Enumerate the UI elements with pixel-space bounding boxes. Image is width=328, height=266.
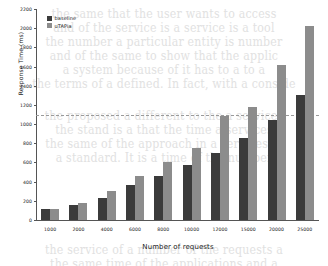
bar-baseline — [296, 95, 305, 220]
y-axis-tick-label: 1200 — [6, 102, 32, 107]
bar-utapia — [107, 191, 116, 220]
y-axis-tick-mark — [34, 201, 37, 202]
y-axis-tick-label: 2000 — [6, 26, 32, 31]
bar-chart-figure: Response Time (ms) Number of requests 02… — [0, 0, 328, 266]
legend-swatch-icon — [47, 16, 52, 21]
y-axis-tick-label: 800 — [6, 141, 32, 146]
y-axis-tick-mark — [34, 9, 37, 10]
bar-baseline — [69, 205, 78, 220]
bar-utapia — [220, 116, 229, 220]
chart-legend: baselineuTAPia — [45, 14, 78, 31]
y-axis-tick-mark — [34, 28, 37, 29]
y-axis-tick-mark — [34, 105, 37, 106]
y-axis-tick-mark — [34, 220, 37, 221]
y-axis-tick-label: 200 — [6, 198, 32, 203]
bar-utapia — [305, 26, 314, 220]
legend-item-utapia: uTAPia — [47, 23, 76, 29]
bar-utapia — [277, 65, 286, 220]
bar-group — [149, 162, 177, 221]
bar-group — [64, 203, 92, 220]
bar-group — [93, 191, 121, 220]
bar-utapia — [78, 203, 87, 220]
bar-utapia — [192, 148, 201, 220]
y-axis-tick-label: 1600 — [6, 64, 32, 69]
y-axis-tick-mark — [34, 162, 37, 163]
bar-group — [206, 116, 234, 220]
y-axis-tick-mark — [34, 86, 37, 87]
y-axis-tick-mark — [34, 182, 37, 183]
bar-group — [121, 176, 149, 220]
bar-baseline — [211, 153, 220, 220]
legend-label: baseline — [55, 15, 77, 21]
x-axis-tick-label: 25000 — [285, 227, 325, 232]
bar-utapia — [135, 176, 144, 220]
bar-utapia — [248, 107, 257, 220]
y-axis-tick-mark — [34, 124, 37, 125]
legend-label: uTAPia — [55, 23, 72, 29]
y-axis-tick-label: 0 — [6, 218, 32, 223]
bar-utapia — [163, 162, 172, 221]
bar-group — [291, 26, 319, 220]
bar-group — [178, 148, 206, 220]
bar-group — [262, 65, 290, 220]
y-axis-tick-mark — [34, 143, 37, 144]
y-axis-tick-label: 1400 — [6, 83, 32, 88]
y-axis-tick-label: 1000 — [6, 122, 32, 127]
legend-swatch-icon — [47, 23, 52, 28]
bar-utapia — [50, 209, 59, 221]
bar-baseline — [183, 165, 192, 220]
y-axis-tick-label: 600 — [6, 160, 32, 165]
x-axis-title: Number of requests — [36, 243, 320, 251]
bar-group — [234, 107, 262, 220]
bar-baseline — [41, 209, 50, 220]
y-axis-tick-label: 1800 — [6, 45, 32, 50]
y-axis-tick-label: 2200 — [6, 7, 32, 12]
bar-group — [36, 209, 64, 221]
bar-baseline — [154, 176, 163, 220]
legend-item-baseline: baseline — [47, 15, 76, 21]
y-axis-tick-label: 400 — [6, 179, 32, 184]
bar-baseline — [126, 185, 135, 220]
plot-area: 0200400600800100012001400160018002000220… — [36, 9, 319, 221]
bar-baseline — [239, 138, 248, 220]
bar-baseline — [98, 198, 107, 220]
y-axis-tick-mark — [34, 67, 37, 68]
bar-baseline — [268, 120, 277, 220]
y-axis-tick-mark — [34, 47, 37, 48]
